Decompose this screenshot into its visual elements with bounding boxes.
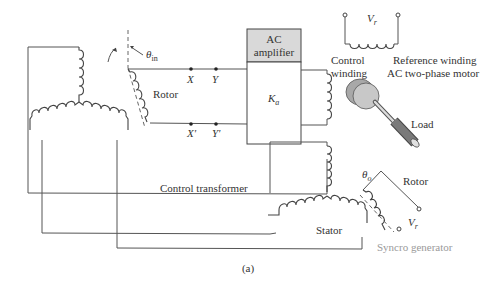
motor-shaft	[375, 102, 396, 124]
stator-wire-top	[270, 142, 327, 193]
syncro-stator-coil-right	[327, 195, 367, 223]
terminal-y-label: Y	[212, 73, 220, 85]
stator-wire-left-end	[270, 233, 276, 234]
servo-system-diagram: θin Rotor X Y X' Y' AC amplifier Ka Cont…	[0, 0, 497, 285]
reference-terminal-right	[396, 13, 400, 17]
terminal-x-dot	[189, 67, 193, 71]
rotor-label-right: Rotor	[403, 175, 428, 187]
vr-bottom-label: Vr	[408, 216, 419, 231]
stator-coil-top	[79, 47, 84, 102]
reference-wire-left	[345, 17, 350, 44]
terminal-x-label: X	[186, 73, 195, 85]
reference-terminal-left	[343, 13, 347, 17]
terminal-y-prime-dot	[214, 122, 218, 126]
control-transformer-stator	[28, 47, 362, 249]
control-winding-coil	[327, 74, 332, 119]
theta-in-label: θin	[146, 48, 158, 63]
terminal-y-dot	[214, 67, 218, 71]
control-winding-label-line2: winding	[331, 67, 368, 79]
syncro-generator-label: Syncro generator	[377, 241, 453, 253]
syncro-rotor-axis	[360, 195, 394, 232]
syncro-rotor-terminal-top	[417, 207, 421, 211]
motor-load: Load	[346, 79, 434, 149]
reference-winding-coil	[350, 44, 394, 49]
reference-wire-right	[394, 17, 398, 44]
rotor-axis	[128, 68, 145, 128]
reference-winding-label: Reference winding	[393, 54, 477, 66]
rotor-label-left: Rotor	[153, 88, 178, 100]
amplifier-label-line2: amplifier	[254, 46, 295, 58]
syncro-stator: Stator	[268, 142, 367, 236]
stator-label: Stator	[316, 224, 343, 236]
syncro-stator-coil-top	[327, 146, 332, 192]
theta-o-label: θo	[362, 168, 371, 183]
terminals: X Y X' Y'	[186, 67, 221, 139]
terminal-x-prime-label: X'	[186, 127, 197, 139]
control-winding-wire-top	[301, 70, 327, 74]
syncro-rotor-terminal-bottom	[397, 227, 401, 231]
vr-top-label: Vr	[367, 12, 378, 27]
rotor-wire-bottom	[150, 123, 247, 124]
stator-coil-right	[79, 101, 128, 130]
syncro-stator-coil-left	[268, 195, 327, 215]
control-winding-label-line1: Control	[331, 54, 365, 66]
control-transformer-rotor: θin Rotor	[108, 30, 247, 128]
theta-in-pointer	[131, 47, 143, 55]
figure-caption: (a)	[242, 262, 255, 275]
amplifier-label-line1: AC	[266, 33, 281, 45]
control-winding-wire-bottom	[301, 119, 327, 125]
terminal-x-prime-dot	[189, 122, 193, 126]
stator-coil-left	[30, 101, 79, 130]
load-label: Load	[411, 118, 434, 130]
terminal-y-prime-label: Y'	[212, 127, 221, 139]
syncro-rotor: θo Rotor Vr Syncro generator	[360, 168, 453, 253]
motor-label: AC two-phase motor	[387, 67, 480, 79]
ac-amplifier: AC amplifier Ka	[247, 29, 301, 144]
control-transformer-label: Control transformer	[160, 182, 248, 194]
